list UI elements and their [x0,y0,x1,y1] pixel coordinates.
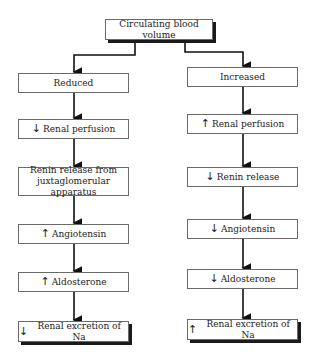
root-box: Circulating blood volume [105,19,213,40]
right-renal-perfusion-box: ↑Renal perfusion [187,114,298,134]
step-label: Renal excretion of Na [199,319,297,341]
left-aldosterone-box: ↑Aldosterone [18,272,129,292]
up-arrow-icon: ↑ [40,277,49,287]
step-label: Renal perfusion [212,119,284,130]
step-label: Angiotensin [52,229,106,240]
down-arrow-icon: ↓ [206,172,215,182]
reduced-box: Reduced [18,73,129,93]
increased-label: Increased [220,72,265,83]
step-label: Aldosterone [52,277,107,288]
right-renal-excretion-box: ↑Renal excretion of Na [187,319,298,340]
step-label: Aldosterone [221,274,276,285]
right-renin-release-box: ↓Renin release [187,167,298,187]
step-label: Renal excretion of Na [30,321,128,343]
step-label: Angiotensin [221,224,275,235]
step-label-line1: Renin release from [30,165,117,176]
step-label: Renin release [217,172,280,183]
left-renal-perfusion-box: ↓Renal perfusion [18,119,129,139]
up-arrow-icon: ↑ [188,325,197,335]
root-label: Circulating blood volume [106,19,212,41]
up-arrow-icon: ↑ [201,119,210,129]
step-label: Renal perfusion [43,124,115,135]
reduced-label: Reduced [54,78,94,89]
left-angiotensin-box: ↑Angiotensin [18,224,129,244]
right-aldosterone-box: ↓Aldosterone [187,269,298,289]
left-renin-release-box: Renin release from juxtaglomerular appar… [18,167,129,196]
right-angiotensin-box: ↓Angiotensin [187,219,298,239]
down-arrow-icon: ↓ [210,224,219,234]
up-arrow-icon: ↑ [41,229,50,239]
increased-box: Increased [187,67,298,87]
down-arrow-icon: ↓ [209,274,218,284]
down-arrow-icon: ↓ [32,124,41,134]
step-label-line2: juxtaglomerular apparatus [19,176,128,198]
down-arrow-icon: ↓ [19,327,28,337]
left-renal-excretion-box: ↓Renal excretion of Na [18,321,129,342]
